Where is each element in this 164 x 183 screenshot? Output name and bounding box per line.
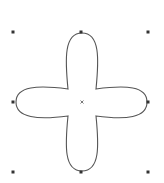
drawing-canvas[interactable]: [0, 0, 164, 183]
resize-handle-top-left[interactable]: [12, 31, 15, 34]
selection-handles: [12, 31, 150, 174]
resize-handle-middle-left[interactable]: [12, 101, 15, 104]
resize-handle-top-right[interactable]: [147, 31, 150, 34]
resize-handle-top-center[interactable]: [80, 31, 83, 34]
resize-handle-bottom-left[interactable]: [12, 171, 15, 174]
resize-handle-bottom-center[interactable]: [80, 171, 83, 174]
center-x-icon: [81, 101, 84, 104]
resize-handle-bottom-right[interactable]: [147, 171, 150, 174]
center-marker: [81, 101, 84, 104]
resize-handle-middle-right[interactable]: [147, 101, 150, 104]
